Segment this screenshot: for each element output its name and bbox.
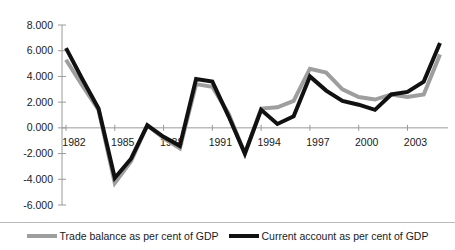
legend-item-trade-balance: Trade balance as per cent of GDP [27,231,219,242]
chart-container: 8.0006.0004.0002.0000.000-2.000-4.000-6.… [0,0,455,250]
x-tick-label: 1997 [306,136,330,148]
x-tick-label: 2003 [404,136,428,148]
legend-item-current-account: Current account as per cent of GDP [229,231,429,242]
legend-label-current-account: Current account as per cent of GDP [262,231,429,242]
x-tick-label: 1985 [111,136,135,148]
series-line-current-account [66,43,440,178]
legend-swatch-current-account [229,234,259,238]
chart-plot-area: 8.0006.0004.0002.0000.000-2.000-4.000-6.… [0,0,455,250]
y-tick-label: -4.000 [23,173,53,185]
x-tick-label: 1991 [209,136,233,148]
y-tick-label: 6.000 [27,44,53,56]
y-tick-label: 2.000 [27,96,53,108]
legend-swatch-trade-balance [27,234,57,238]
y-tick-label: 4.000 [27,70,53,82]
chart-legend: Trade balance as per cent of GDP Current… [0,222,455,249]
y-tick-label: -6.000 [23,199,53,211]
x-axis-tick-labels: 19821985198819911994199720002003 [62,136,427,148]
y-axis-tick-labels: 8.0006.0004.0002.0000.000-2.000-4.000-6.… [23,19,53,211]
x-tick-label: 2000 [355,136,379,148]
series-line-trade-balance [66,55,440,184]
data-series-group [66,43,440,183]
x-tick-label: 1982 [62,136,86,148]
x-tick-label: 1994 [257,136,281,148]
y-tick-label: -2.000 [23,147,53,159]
legend-label-trade-balance: Trade balance as per cent of GDP [60,231,219,242]
y-tick-label: 0.000 [27,121,53,133]
y-tick-label: 8.000 [27,19,53,31]
